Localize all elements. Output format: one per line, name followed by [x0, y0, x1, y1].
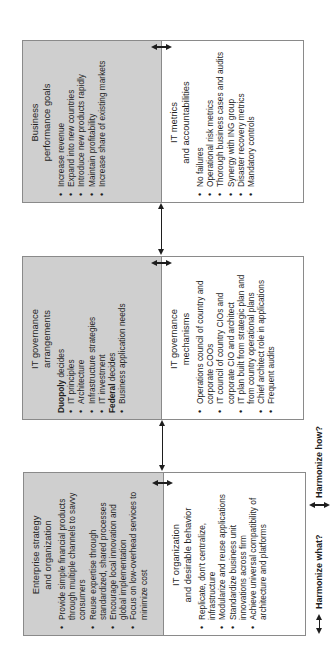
- list-item: Disaster recovery metrics: [236, 49, 246, 196]
- governance-mechanisms-title: IT governance mechanisms: [168, 265, 191, 413]
- governance-mechanisms-list: Operations council of country and corpor…: [195, 265, 277, 413]
- list-item: Achieve universal compatibility of archi…: [248, 481, 268, 629]
- list-item: Synergy with ING group: [226, 49, 236, 196]
- duopoly-list: IT principles Architecture Infrastructur…: [66, 265, 107, 413]
- it-organization-box: IT organization and desirable behavior R…: [163, 472, 306, 636]
- list-item: Expand into new countries: [66, 49, 76, 196]
- list-item: Reuse expertise through standardized, sh…: [88, 481, 108, 629]
- duopoly-heading: Duopoly decides: [56, 265, 66, 413]
- it-metrics-box: IT metrics and accountabilities No failu…: [161, 40, 304, 203]
- list-item: Mandatory controls: [246, 49, 256, 196]
- list-item: Standardize business unit innovations ac…: [228, 481, 248, 629]
- list-item: Infrastructure strategies: [87, 265, 97, 413]
- list-item: Operations council of country and corpor…: [195, 265, 215, 413]
- list-item: IT investment: [97, 265, 107, 413]
- list-item: Introduce new products rapidly: [76, 49, 86, 196]
- list-item: Increase revenue: [56, 49, 66, 196]
- list-item: Architecture: [76, 265, 86, 413]
- list-item: IT plan built from strategic plan and fr…: [236, 265, 256, 413]
- list-item: Maintain profitability: [87, 49, 97, 196]
- list-item: Frequent audits: [266, 265, 276, 413]
- list-item: Focus on low-overhead services to minimi…: [128, 481, 148, 629]
- list-item: Business application needs: [117, 265, 127, 413]
- governance-arrangements-box: IT governance arrangements Duopoly decid…: [22, 256, 162, 420]
- federal-list: Business application needs: [117, 265, 127, 413]
- list-item: Encourage local innovation and global im…: [108, 481, 128, 629]
- list-item: IT council of country CIOs and corporate…: [215, 265, 235, 413]
- list-item: IT principles: [66, 265, 76, 413]
- list-item: Provide simple financial products throug…: [57, 481, 88, 629]
- enterprise-strategy-title: Enterprise strategy and organization: [30, 481, 53, 629]
- enterprise-strategy-list: Provide simple financial products throug…: [57, 481, 149, 629]
- list-item: No failures: [195, 49, 205, 196]
- list-item: Modularize and reuse applications: [217, 481, 227, 629]
- governance-arrangements-title: IT governance arrangements: [29, 265, 52, 413]
- business-goals-box: Business performance goals Increase reve…: [22, 40, 162, 203]
- business-goals-list: Increase revenue Expand into new countri…: [56, 49, 107, 196]
- list-item: Chief architect role in applications: [256, 265, 266, 413]
- legend-what-label: Harmonize what?: [314, 534, 324, 609]
- it-organization-list: Replicate, don't centralize, infrastruct…: [197, 481, 268, 629]
- it-metrics-list: No failures Operational risk metrics Tho…: [195, 49, 256, 196]
- list-item: Thorough business cases and audits: [215, 49, 225, 196]
- it-organization-title: IT organization and desirable behavior: [170, 481, 193, 629]
- federal-heading: Federal decides: [107, 265, 117, 413]
- business-goals-title: Business performance goals: [29, 49, 52, 196]
- list-item: Operational risk metrics: [205, 49, 215, 196]
- governance-mechanisms-box: IT governance mechanisms Operations coun…: [161, 256, 304, 420]
- list-item: Replicate, don't centralize, infrastruct…: [197, 481, 217, 629]
- enterprise-strategy-box: Enterprise strategy and organization Pro…: [23, 472, 164, 636]
- it-metrics-title: IT metrics and accountabilities: [168, 49, 191, 196]
- list-item: Increase share of existing markets: [97, 49, 107, 196]
- legend-how-label: Harmonize how?: [314, 426, 324, 498]
